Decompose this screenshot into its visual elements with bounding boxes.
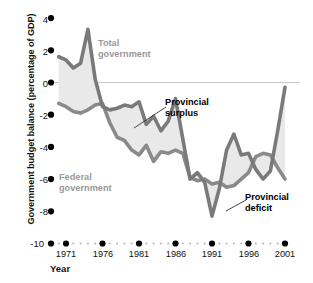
y-tick-dot	[48, 47, 54, 53]
x-tick-dot-minor	[123, 243, 125, 245]
x-tick-dot-major	[99, 240, 105, 246]
x-tick-dot-major	[282, 240, 288, 246]
annotation-total-government: Total government	[98, 38, 151, 59]
x-tick-dot-minor	[131, 243, 133, 245]
x-tick-dot-minor	[233, 243, 235, 245]
x-tick-dot-minor	[240, 243, 242, 245]
x-tick-dot-minor	[218, 243, 220, 245]
y-tick-dot	[48, 112, 54, 118]
x-tick-dot-major	[209, 240, 215, 246]
y-tick-dot	[48, 15, 54, 21]
y-tick-dot	[48, 144, 54, 150]
x-tick-dot-minor	[269, 243, 271, 245]
x-tick-dot-minor	[262, 243, 264, 245]
x-tick-dot-minor	[94, 243, 96, 245]
x-tick-dot-minor	[160, 243, 162, 245]
x-tick-dot-minor	[226, 243, 228, 245]
x-tick-dot-major	[63, 240, 69, 246]
x-tick-dot-minor	[87, 243, 89, 245]
x-tick-dot-minor	[72, 243, 74, 245]
x-tick-dot-minor	[58, 243, 60, 245]
plot-area	[0, 0, 313, 283]
x-tick-dot-minor	[255, 243, 257, 245]
x-tick-dot-minor	[277, 243, 279, 245]
x-tick-dot-minor	[189, 243, 191, 245]
y-tick-dot	[48, 79, 54, 85]
y-tick-dot	[48, 240, 54, 246]
provincial-deficit-leader-line	[226, 200, 246, 211]
annotation-provincial-deficit: Provincial deficit	[245, 192, 289, 213]
x-tick-dot-minor	[116, 243, 118, 245]
y-tick-dot	[48, 208, 54, 214]
x-tick-dot-minor	[153, 243, 155, 245]
x-tick-dot-minor	[109, 243, 111, 245]
budget-balance-chart: Government budget balance (percentage of…	[0, 0, 313, 283]
x-tick-dot-minor	[182, 243, 184, 245]
annotation-provincial-surplus: Provincial surplus	[165, 97, 209, 118]
y-tick-dot	[48, 176, 54, 182]
annotation-federal-government: Federal government	[59, 172, 112, 193]
x-tick-dot-minor	[80, 243, 82, 245]
x-tick-dot-minor	[196, 243, 198, 245]
x-tick-dot-minor	[145, 243, 147, 245]
x-tick-dot-major	[136, 240, 142, 246]
x-tick-dot-minor	[167, 243, 169, 245]
x-tick-dot-minor	[204, 243, 206, 245]
x-tick-dot-major	[172, 240, 178, 246]
x-tick-dot-major	[245, 240, 251, 246]
